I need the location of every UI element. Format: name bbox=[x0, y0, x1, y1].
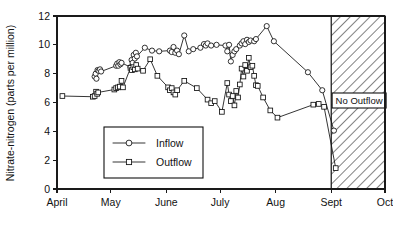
x-tick-label: July bbox=[211, 196, 230, 208]
data-point-outflow bbox=[255, 84, 260, 89]
y-tick-label: 2 bbox=[44, 154, 50, 166]
data-point-inflow bbox=[226, 42, 231, 47]
y-tick-label: 4 bbox=[44, 125, 50, 137]
data-point-outflow bbox=[225, 81, 230, 86]
y-axis-ticks: 024681012 bbox=[38, 10, 57, 195]
x-tick-label: Aug bbox=[266, 196, 285, 208]
data-point-inflow bbox=[98, 69, 103, 74]
data-point-outflow bbox=[316, 102, 321, 107]
data-point-inflow bbox=[253, 36, 258, 41]
data-point-inflow bbox=[271, 39, 276, 44]
y-tick-label: 8 bbox=[44, 67, 50, 79]
data-point-outflow bbox=[252, 73, 257, 78]
data-point-outflow bbox=[275, 115, 280, 120]
data-point-outflow bbox=[230, 94, 235, 99]
data-point-inflow bbox=[157, 49, 162, 54]
data-point-inflow bbox=[191, 47, 196, 52]
chart-container: No Outflow 024681012 AprilMayJuneJulyAug… bbox=[0, 0, 393, 228]
data-point-outflow bbox=[243, 63, 248, 68]
data-point-inflow bbox=[94, 76, 99, 81]
data-point-inflow bbox=[119, 60, 124, 65]
data-point-inflow bbox=[176, 52, 181, 57]
data-point-inflow bbox=[134, 54, 139, 59]
data-point-outflow bbox=[60, 94, 65, 99]
no-outflow-annotation: No Outflow bbox=[331, 16, 386, 189]
data-point-inflow bbox=[331, 128, 336, 133]
data-point-outflow bbox=[135, 66, 140, 71]
data-point-outflow bbox=[333, 166, 338, 171]
data-point-outflow bbox=[121, 85, 126, 90]
y-tick-label: 6 bbox=[44, 96, 50, 108]
data-point-inflow bbox=[214, 42, 219, 47]
data-point-outflow bbox=[261, 95, 266, 100]
legend-marker-outflow bbox=[126, 159, 131, 164]
data-point-outflow bbox=[220, 110, 225, 115]
data-point-outflow bbox=[311, 102, 316, 107]
y-tick-label: 10 bbox=[38, 38, 50, 50]
data-point-inflow bbox=[225, 49, 230, 54]
legend-label-outflow[interactable]: Outflow bbox=[156, 156, 192, 168]
data-point-outflow bbox=[250, 63, 255, 68]
x-axis-ticks: AprilMayJuneJulyAugSeptOct bbox=[46, 189, 393, 208]
data-point-outflow bbox=[119, 79, 124, 84]
legend-label-inflow[interactable]: Inflow bbox=[156, 137, 184, 149]
data-point-outflow bbox=[246, 55, 251, 60]
data-point-outflow bbox=[322, 104, 327, 109]
data-point-outflow bbox=[241, 74, 246, 79]
data-point-outflow bbox=[96, 90, 101, 95]
x-tick-label: Sept bbox=[320, 196, 342, 208]
data-point-outflow bbox=[236, 95, 241, 100]
data-point-inflow bbox=[264, 23, 269, 28]
data-point-outflow bbox=[232, 103, 237, 108]
nitrate-nitrogen-line-chart: No Outflow 024681012 AprilMayJuneJulyAug… bbox=[0, 0, 393, 228]
data-point-outflow bbox=[194, 86, 199, 91]
data-point-outflow bbox=[141, 68, 146, 73]
no-outflow-label: No Outflow bbox=[336, 95, 383, 106]
data-point-outflow bbox=[182, 79, 187, 84]
data-point-outflow bbox=[148, 57, 153, 62]
data-point-outflow bbox=[268, 108, 273, 113]
x-tick-label: June bbox=[155, 196, 178, 208]
y-tick-label: 0 bbox=[44, 183, 50, 195]
y-tick-label: 12 bbox=[38, 10, 50, 22]
data-point-inflow bbox=[209, 43, 214, 48]
data-point-inflow bbox=[142, 45, 147, 50]
x-tick-label: April bbox=[46, 196, 67, 208]
x-tick-label: Oct bbox=[377, 196, 393, 208]
chart-legend[interactable]: InflowOutflow bbox=[104, 127, 203, 178]
data-point-outflow bbox=[237, 82, 242, 87]
legend-box bbox=[104, 127, 203, 178]
data-point-inflow bbox=[320, 88, 325, 93]
data-point-inflow bbox=[182, 33, 187, 38]
legend-marker-inflow bbox=[126, 140, 132, 146]
data-point-outflow bbox=[234, 89, 239, 94]
data-point-outflow bbox=[212, 99, 217, 104]
data-point-inflow bbox=[149, 48, 154, 53]
data-point-outflow bbox=[175, 88, 180, 93]
x-tick-label: May bbox=[101, 196, 122, 208]
y-axis-title: Nitrate-nitrogen (parts per million) bbox=[4, 25, 16, 181]
data-point-outflow bbox=[155, 73, 160, 78]
data-point-inflow bbox=[228, 59, 233, 64]
data-point-inflow bbox=[305, 70, 310, 75]
